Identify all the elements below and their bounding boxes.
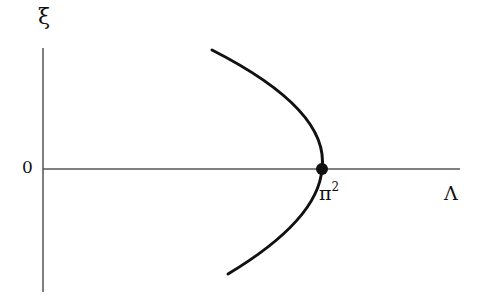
bifurcation-point-label: π2 [319, 182, 339, 204]
bifurcation-diagram [0, 0, 486, 301]
bifurcation-curve [212, 50, 323, 274]
bifurcation-point [316, 163, 328, 175]
exponent: 2 [332, 180, 340, 194]
x-axis-label: Λ [444, 182, 458, 204]
y-axis-label: ξ [38, 4, 50, 29]
origin-label: 0 [22, 157, 33, 177]
pi-symbol: π [319, 182, 332, 204]
